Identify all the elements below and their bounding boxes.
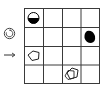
half-filled-circle-shape [28,13,39,24]
puzzle-grid [24,8,100,84]
rotate-icon [3,25,16,38]
outline-double-pentagon-shape [65,68,78,80]
filled-blob-shape [84,31,95,43]
right-arrow-icon [4,43,16,49]
outline-pentagon-shape [28,51,39,61]
